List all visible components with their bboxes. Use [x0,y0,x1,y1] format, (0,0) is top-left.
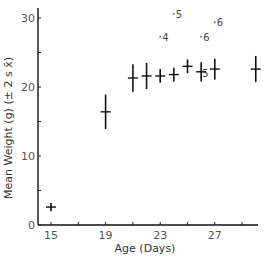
chart: 151923270102030 45665 Age (Days) Mean We… [0,0,268,263]
outlier-dot [173,13,175,15]
data-point [169,68,179,82]
data-point [101,95,111,130]
x-axis-title: Age (Days) [115,242,176,255]
data-point [155,69,165,83]
data-point [46,203,56,211]
x-tick-label: 27 [208,229,222,242]
x-tick-label: 19 [99,229,113,242]
x-tick-label: 23 [153,229,167,242]
data-point [142,63,152,89]
annotation-label: 6 [203,32,209,43]
data-marks [46,56,261,211]
data-point [128,64,138,92]
annotation-label: 5 [202,68,208,79]
outlier-dot [159,36,161,38]
y-axis-title: Mean Weight (g) (± 2 s x̄) [2,57,15,199]
data-point [251,56,261,82]
annotations: 45665 [159,9,223,79]
outlier-dot [214,21,216,23]
y-tick-label: 30 [21,12,35,25]
outlier-dot [200,36,202,38]
axes: 151923270102030 [21,8,258,242]
annotation-label: 6 [217,17,223,28]
x-tick-label: 15 [44,229,58,242]
annotation-label: 4 [162,32,168,43]
data-point [183,59,193,73]
data-point [210,59,220,80]
annotation-label: 5 [176,9,182,20]
y-tick-label: 0 [28,219,35,232]
y-tick-label: 20 [21,81,35,94]
y-tick-label: 10 [21,150,35,163]
